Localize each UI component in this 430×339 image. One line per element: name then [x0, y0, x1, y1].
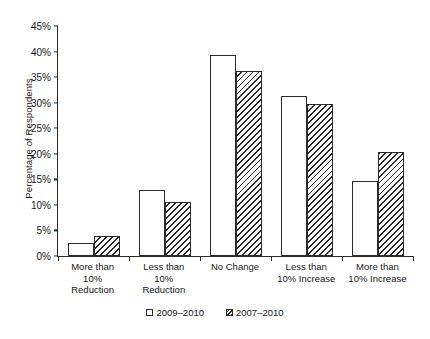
bar-open: [352, 181, 378, 256]
y-axis-tick-label: 5%: [11, 225, 58, 236]
legend-label: 2009–2010: [156, 307, 204, 318]
y-axis-tick-label: 30%: [11, 97, 58, 108]
legend-label: 2007–2010: [236, 307, 284, 318]
bar-chart: Percentage of Respondents 0%5%10%15%20%2…: [0, 0, 430, 339]
y-axis-tick-label: 0%: [11, 251, 58, 262]
x-axis-labels: More than 10% ReductionLess than 10% Red…: [57, 261, 413, 296]
x-axis-category-label: Less than 10% Increase: [271, 261, 342, 296]
bar-open: [210, 55, 236, 256]
bar-open: [68, 243, 94, 256]
bar-hatched: [378, 152, 404, 256]
bar-open: [281, 96, 307, 256]
y-axis-tick-label: 15%: [11, 174, 58, 185]
bar-group: [200, 26, 271, 256]
y-axis-tick-label: 35%: [11, 72, 58, 83]
bar-hatched: [236, 71, 262, 256]
x-axis-category-label: Less than 10% Reduction: [128, 261, 199, 296]
legend-swatch-hatched: [226, 309, 233, 316]
y-axis-tick-label: 45%: [11, 21, 58, 32]
bar-pair: [200, 26, 271, 256]
bar-group: [271, 26, 342, 256]
bar-pair: [342, 26, 413, 256]
x-axis-category-label: No Change: [199, 261, 270, 296]
bar-groups: [58, 26, 413, 256]
x-axis-category-label: More than 10% Reduction: [57, 261, 128, 296]
bar-group: [342, 26, 413, 256]
y-axis-tick-label: 10%: [11, 199, 58, 210]
y-axis-tick-label: 25%: [11, 123, 58, 134]
bar-group: [58, 26, 129, 256]
bar-pair: [58, 26, 129, 256]
bar-group: [129, 26, 200, 256]
bar-pair: [129, 26, 200, 256]
bar-hatched: [94, 236, 120, 256]
y-axis-tick-label: 40%: [11, 46, 58, 57]
bar-pair: [271, 26, 342, 256]
bar-hatched: [165, 202, 191, 256]
plot-area: 0%5%10%15%20%25%30%35%40%45%: [57, 26, 413, 257]
legend-item: 2009–2010: [146, 307, 204, 318]
legend-swatch-open: [146, 309, 153, 316]
bar-open: [139, 190, 165, 256]
x-axis-category-label: More than 10% Increase: [342, 261, 413, 296]
x-axis-tick-mark: [413, 256, 414, 261]
y-axis-tick-label: 20%: [11, 148, 58, 159]
legend-item: 2007–2010: [226, 307, 284, 318]
chart-legend: 2009–20102007–2010: [0, 307, 430, 318]
bar-hatched: [307, 104, 333, 256]
